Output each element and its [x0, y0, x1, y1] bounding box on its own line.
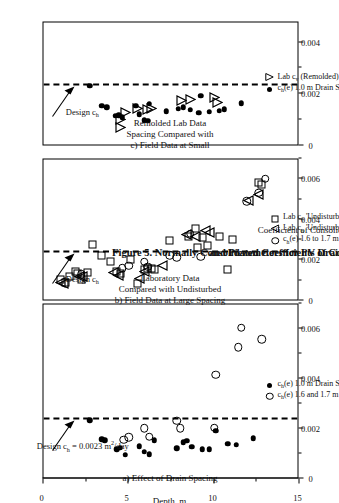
open-circle-marker — [211, 370, 220, 379]
panel-b-x-minor-tick — [298, 198, 301, 199]
open-triangle-left-icon — [270, 223, 279, 235]
panel-b-x-minor-tick — [298, 157, 301, 158]
filled-circle-marker — [206, 108, 212, 114]
filled-circle-marker — [132, 103, 138, 109]
filled-circle-marker — [184, 438, 190, 444]
panel-a-x-tick-label: 0.006 — [290, 323, 330, 333]
filled-circle-marker — [196, 109, 202, 115]
open-circle-marker — [175, 424, 184, 433]
open-square-marker — [215, 232, 223, 240]
panel-a-x-minor-tick — [298, 452, 301, 453]
open-circle-marker — [139, 424, 148, 433]
depth-tick-label: 10 — [203, 492, 221, 502]
filled-circle-icon — [267, 86, 272, 91]
legend-symbol — [270, 224, 280, 234]
open-tri-left-marker — [203, 224, 214, 235]
panel-b-title-line: b) Field Data at Large Spacing — [90, 295, 250, 306]
legend-item: ch(e) 1.6 and 1.7 m Drain Spacing — [264, 391, 339, 402]
filled-circle-marker — [250, 435, 256, 441]
figure-stage: 00.0020.0040.006a) Effect of Drain Spaci… — [0, 0, 339, 503]
open-tri-right-marker — [145, 106, 156, 117]
panel-a-legend: ch(e) 1.0 m Drain Spacingch(e) 1.6 and 1… — [264, 380, 339, 402]
legend-symbol — [270, 235, 280, 245]
panel-c-design-arrow — [48, 82, 82, 120]
panel-c-x-tick-label: 0 — [290, 140, 330, 150]
panel-c-title-line: c) Field Data at Small — [90, 140, 250, 151]
open-circle-marker — [186, 229, 195, 238]
filled-circle-marker — [86, 82, 92, 88]
legend-symbol — [264, 73, 274, 83]
legend-symbol — [264, 391, 274, 401]
open-circle-icon — [271, 236, 279, 244]
panel-c-x-minor-tick — [298, 118, 301, 119]
depth-minor-tick — [170, 478, 171, 481]
panel-a-design-arrow — [48, 417, 82, 455]
panel-c-title-line: Remolded Lab Data — [90, 118, 250, 129]
open-triangle-right-icon — [265, 72, 274, 84]
filled-circle-marker — [86, 417, 92, 423]
panel-b-x-minor-tick — [298, 279, 301, 280]
filled-circle-marker — [225, 441, 231, 447]
legend-symbol — [270, 213, 280, 223]
filled-circle-marker — [197, 93, 203, 99]
panel-b-x-tick-label: 0 — [290, 295, 330, 305]
panel-c-title-line: Spacing Compared with — [90, 129, 250, 140]
legend-item: ch(e) 1.6 to 1.7 m Drain Spacing — [270, 235, 339, 246]
depth-tick — [42, 478, 43, 483]
open-circle-marker — [257, 335, 266, 344]
filled-circle-marker — [187, 106, 193, 112]
figure-caption-line2: and Piezometers for PV Drains at Florenc… — [107, 245, 339, 259]
filled-circle-marker — [146, 100, 152, 106]
filled-circle-marker — [206, 446, 212, 452]
filled-circle-marker — [180, 104, 186, 110]
legend-label: ch(e) 1.0 m Drain Spacing — [277, 81, 339, 96]
depth-tick — [127, 478, 128, 483]
open-circle-marker — [233, 343, 242, 352]
filled-circle-marker — [233, 442, 239, 448]
filled-circle-marker — [163, 108, 169, 114]
depth-minor-tick — [255, 478, 256, 481]
panel-a-x-minor-tick — [298, 352, 301, 353]
open-square-marker — [165, 236, 173, 244]
open-circle-marker — [254, 188, 263, 197]
legend-symbol — [264, 380, 274, 390]
legend-symbol — [264, 84, 274, 94]
depth-axis-label: Depth, m — [139, 495, 199, 503]
filled-circle-marker — [238, 100, 244, 106]
filled-circle-marker — [199, 446, 205, 452]
open-circle-marker — [261, 174, 270, 183]
panel-c-legend: Lab cv (Remolded) Oedometerch(e) 1.0 m D… — [264, 72, 339, 94]
filled-circle-icon — [267, 383, 272, 388]
open-square-icon — [271, 215, 278, 222]
filled-circle-marker — [173, 445, 179, 451]
panel-b-x-tick-label: 0.006 — [290, 173, 330, 183]
depth-tick — [298, 478, 299, 483]
open-circle-marker — [242, 197, 251, 206]
depth-tick — [213, 478, 214, 483]
filled-circle-marker — [221, 106, 227, 112]
depth-tick-label: 5 — [117, 492, 135, 502]
panel-b-title-line: Laboratory Data — [90, 273, 250, 284]
figure-canvas: 00.0020.0040.006a) Effect of Drain Spaci… — [0, 0, 339, 503]
filled-circle-marker — [189, 444, 195, 450]
depth-tick-label: 0 — [32, 492, 50, 502]
open-circle-marker — [143, 262, 152, 271]
open-circle-marker — [124, 261, 133, 270]
legend-label: ch(e) 1.6 and 1.7 m Drain Spacing — [277, 389, 339, 404]
depth-tick-label: 15 — [288, 492, 306, 502]
open-circle-marker — [209, 423, 218, 432]
panel-a-x-tick-label: 0.002 — [290, 423, 330, 433]
legend-item: ch(e) 1.0 m Drain Spacing — [264, 83, 339, 94]
panel-b-design-arrow — [48, 249, 82, 287]
open-circle-icon — [265, 392, 273, 400]
filled-circle-marker — [136, 111, 142, 117]
panel-b-title-line: Compared with Undisturbed — [90, 284, 250, 295]
depth-minor-tick — [85, 478, 86, 481]
panel-c-x-minor-tick — [298, 67, 301, 68]
panel-b-legend: Lab cv 'Undisturbed' OedometerLab ch 'Un… — [270, 213, 339, 246]
panel-c-x-tick-label: 0.004 — [290, 37, 330, 47]
open-circle-marker — [237, 323, 246, 332]
